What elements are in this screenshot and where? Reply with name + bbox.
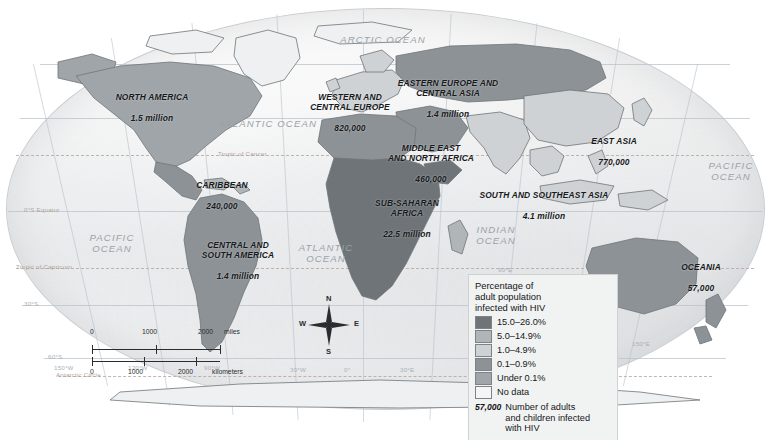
scale-bar-kilometers: 0 1000 2000 kilometers [86, 372, 236, 384]
legend-label-no-data: No data [497, 387, 529, 398]
region-name-south-and-southeast-asia: SOUTH AND SOUTHEAST ASIA [479, 190, 608, 200]
region-label-oceania: OCEANIA 57,000 [658, 252, 744, 293]
world-hiv-map: ARCTIC OCEAN ATLANTIC OCEAN ATLANTIC OCE… [0, 0, 769, 440]
land-new-zealand [706, 294, 726, 328]
compass-star-icon [300, 296, 358, 354]
scale-km-tick-0: 0 [90, 368, 94, 375]
legend-title: Percentage of adult population infected … [475, 280, 611, 313]
region-name-north-america: NORTH AMERICA [116, 92, 189, 102]
legend-note-text: Number of adults and children infected w… [505, 402, 590, 434]
ocean-label-pacific-east: PACIFIC OCEAN [698, 160, 764, 182]
scale-bar: 0 1000 2000 miles 0 1000 2000 kilometers [86, 330, 236, 384]
legend-label-01-09: 0.1–0.9% [497, 359, 536, 370]
region-label-north-america: NORTH AMERICA 1.5 million [92, 82, 212, 123]
scale-km-tick-1: 1000 [128, 368, 143, 375]
region-label-caribbean: CARIBBEAN 240,000 [172, 170, 272, 211]
land-new-zealand-south [694, 326, 712, 344]
legend-row-01-09: 0.1–0.9% [475, 358, 611, 371]
legend-swatch-no-data [475, 386, 492, 399]
compass-label-east: E [354, 319, 359, 328]
land-japan [632, 98, 652, 126]
legend-note: 57,000 Number of adults and children inf… [475, 402, 611, 434]
region-value-western-and-central-europe: 820,000 [334, 123, 365, 133]
region-name-caribbean: CARIBBEAN [196, 180, 248, 190]
scale-km-tick-2: 2000 [178, 368, 193, 375]
legend-row-no-data: No data [475, 386, 611, 399]
gridlabel-lat-60s: 60°S [48, 353, 62, 360]
land-arctic-islands [146, 30, 224, 54]
gridlabel-lon-30w: 30°W [290, 366, 306, 373]
compass-rose: N S W E [300, 296, 358, 354]
ocean-label-indian: INDIAN OCEAN [460, 224, 532, 246]
ocean-label-arctic: ARCTIC OCEAN [318, 34, 448, 45]
legend-row-5-14: 5.0–14.9% [475, 330, 611, 343]
ocean-label-atlantic-south: ATLANTIC OCEAN [288, 242, 364, 264]
region-label-middle-east-and-north-africa: MIDDLE EAST AND NORTH AFRICA 460,000 [372, 133, 490, 184]
gridlabel-lon-30e: 30°E [400, 366, 414, 373]
legend-label-15-26: 15.0–26.0% [497, 317, 546, 328]
scale-miles-tick-1: 1000 [142, 328, 157, 335]
region-name-sub-saharan-africa: SUB-SAHARAN AFRICA [375, 198, 439, 218]
region-value-caribbean: 240,000 [206, 201, 237, 211]
region-label-western-and-central-europe: WESTERN AND CENTRAL EUROPE 820,000 [300, 82, 400, 133]
legend-swatch-15-26 [475, 316, 492, 329]
legend-row-15-26: 15.0–26.0% [475, 316, 611, 329]
region-name-eastern-europe-and-central-asia: EASTERN EUROPE AND CENTRAL ASIA [398, 78, 499, 98]
land-new-guinea [618, 190, 668, 210]
legend-swatch-1-4 [475, 344, 492, 357]
region-name-east-asia: EAST ASIA [591, 136, 637, 146]
legend-swatch-under-01 [475, 372, 492, 385]
compass-label-north: N [326, 294, 331, 303]
region-value-central-and-south-america: 1.4 million [217, 271, 260, 281]
region-label-south-and-southeast-asia: SOUTH AND SOUTHEAST ASIA 4.1 million [476, 180, 612, 221]
legend-row-under-01: Under 0.1% [475, 372, 611, 385]
scale-miles-tick-0: 0 [90, 328, 94, 335]
gridlabel-lat-30s: 30°S [24, 300, 38, 307]
compass-label-south: S [326, 347, 331, 356]
land-southeast-asia [530, 146, 564, 176]
region-value-oceania: 57,000 [688, 283, 715, 293]
region-name-middle-east-and-north-africa: MIDDLE EAST AND NORTH AFRICA [388, 143, 474, 163]
region-value-north-america: 1.5 million [131, 113, 174, 123]
compass-label-west: W [299, 319, 306, 328]
region-name-western-and-central-europe: WESTERN AND CENTRAL EUROPE [310, 92, 390, 112]
gridlabel-equator: 0°S Equator [24, 206, 60, 213]
scale-miles-unit: miles [224, 328, 240, 335]
legend-label-under-01: Under 0.1% [497, 373, 546, 384]
scale-bar-line-miles [86, 345, 236, 359]
region-label-sub-saharan-africa: SUB-SAHARAN AFRICA 22.5 million [352, 188, 462, 239]
legend-swatch-01-09 [475, 358, 492, 371]
region-value-sub-saharan-africa: 22.5 million [383, 229, 430, 239]
region-value-east-asia: 770,000 [598, 157, 629, 167]
legend-note-number: 57,000 [475, 402, 501, 434]
legend-row-1-4: 1.0–4.9% [475, 344, 611, 357]
region-value-middle-east-and-north-africa: 460,000 [415, 174, 446, 184]
region-name-central-and-south-america: CENTRAL AND SOUTH AMERICA [202, 240, 274, 260]
gridlabel-lon-0: 0° [344, 366, 350, 373]
legend-label-1-4: 1.0–4.9% [497, 345, 536, 356]
scale-km-unit: kilometers [212, 368, 243, 375]
ocean-label-pacific-west: PACIFIC OCEAN [74, 232, 150, 254]
legend-swatch-5-14 [475, 330, 492, 343]
gridlabel-lon-150e: 150°E [632, 340, 650, 347]
region-value-south-and-southeast-asia: 4.1 million [523, 211, 566, 221]
region-label-east-asia: EAST ASIA 770,000 [566, 126, 662, 167]
gridlabel-lon-90e: 90°E [498, 266, 512, 273]
legend: Percentage of adult population infected … [468, 274, 618, 440]
gridlabel-lon-150w: 150°W [54, 364, 74, 371]
scale-bar-miles: 0 1000 2000 miles [86, 330, 236, 345]
legend-label-5-14: 5.0–14.9% [497, 331, 541, 342]
region-label-eastern-europe-and-central-asia: EASTERN EUROPE AND CENTRAL ASIA 1.4 mill… [388, 68, 508, 119]
region-label-central-and-south-america: CENTRAL AND SOUTH AMERICA 1.4 million [182, 230, 294, 281]
scale-miles-tick-2: 2000 [198, 328, 213, 335]
gridlabel-tropic-of-capricorn: Tropic of Capricorn [16, 263, 72, 270]
gridlabel-tropic-of-cancer: Tropic of Cancer [218, 150, 267, 157]
region-name-oceania: OCEANIA [681, 262, 721, 272]
region-value-eastern-europe-and-central-asia: 1.4 million [427, 109, 470, 119]
